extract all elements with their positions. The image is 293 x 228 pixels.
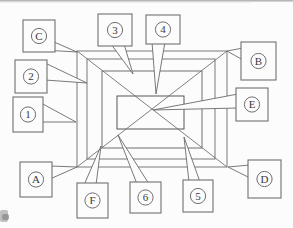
callout-label-D: D bbox=[261, 173, 269, 185]
callout-label-5: 5 bbox=[195, 190, 201, 202]
callout-2: 2 bbox=[15, 60, 47, 93]
callout-label-C: C bbox=[35, 30, 42, 42]
callout-3: 3 bbox=[98, 14, 132, 46]
callout-B: B bbox=[241, 42, 276, 80]
callout-label-E: E bbox=[249, 98, 256, 110]
callout-A: A bbox=[20, 162, 52, 197]
callout-label-1: 1 bbox=[25, 108, 31, 120]
scan-artifact-corner-blob-dark bbox=[2, 214, 9, 220]
callout-label-A: A bbox=[32, 173, 40, 185]
callout-C: C bbox=[23, 20, 55, 52]
callout-F: F bbox=[77, 183, 108, 218]
callout-1: 1 bbox=[13, 97, 43, 132]
callout-label-F: F bbox=[89, 194, 95, 206]
callout-E: E bbox=[236, 88, 268, 121]
callout-label-4: 4 bbox=[160, 23, 166, 35]
scan-artifact-top-band bbox=[0, 0, 293, 2]
callout-label-B: B bbox=[255, 55, 262, 67]
callout-6: 6 bbox=[130, 182, 161, 213]
nested-rectangles-diagram: C34B2E1AF65D bbox=[0, 0, 293, 228]
callout-label-3: 3 bbox=[112, 24, 118, 36]
callout-label-6: 6 bbox=[143, 191, 149, 203]
scan-artifact-top-band-soft bbox=[0, 2, 250, 3]
callout-4: 4 bbox=[146, 15, 180, 44]
callout-label-2: 2 bbox=[28, 70, 34, 82]
callout-5: 5 bbox=[183, 180, 213, 212]
scanned-diagram-page: C34B2E1AF65D bbox=[0, 0, 293, 228]
callout-D: D bbox=[248, 160, 281, 198]
